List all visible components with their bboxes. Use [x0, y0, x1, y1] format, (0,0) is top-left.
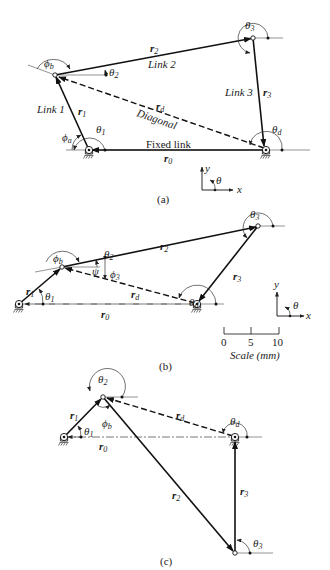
label-r0: r0 — [164, 152, 172, 166]
scale-label: Scale (mm) — [230, 349, 280, 362]
four-bar-linkage-figure: Link 1 Link 2 Link 3 Diagonal Fixed link… — [0, 0, 330, 570]
label-theta2-c: θ2 — [98, 373, 107, 387]
svg-text:y: y — [204, 162, 210, 174]
svg-text:0: 0 — [221, 336, 227, 348]
label-r3-b: r3 — [233, 270, 241, 284]
ground-pivot-left — [84, 146, 94, 158]
label-phib: ϕb — [44, 57, 54, 71]
coordinate-axes-icon-b: y θ x — [273, 278, 311, 321]
diagonal-rd-c — [107, 398, 233, 436]
label-fixed-link: Fixed link — [146, 138, 191, 150]
label-thetad: θd — [272, 123, 282, 137]
label-phi3-b: ϕ3 — [110, 268, 120, 282]
ground-pivot-right — [261, 146, 271, 158]
label-thetad-c: θd — [230, 415, 240, 429]
joint-b — [53, 73, 57, 77]
link2-r2-c — [103, 397, 233, 551]
caption-b: (b) — [159, 360, 172, 373]
label-r2-b: r2 — [160, 240, 168, 254]
label-psi-b: ψ — [92, 265, 99, 277]
svg-text:x: x — [236, 183, 242, 195]
label-theta2: θ2 — [109, 66, 118, 80]
label-theta2-b: θ2 — [104, 248, 113, 262]
label-r2: r2 — [150, 42, 158, 56]
svg-text:5: 5 — [248, 336, 254, 348]
coordinate-axes-icon: y θ x — [202, 162, 242, 195]
link2-r2-b — [62, 227, 256, 267]
label-theta3: θ3 — [245, 19, 254, 33]
panel-b: r1 r2 r3 rd r0 θ1 ϕb θ2 ϕ3 ψ θ3 θd y θ x… — [14, 208, 312, 373]
label-r0-b: r0 — [101, 308, 109, 322]
label-phib-b: ϕb — [53, 252, 63, 266]
svg-text:θ: θ — [293, 299, 299, 311]
svg-text:x: x — [305, 309, 311, 321]
label-rd: rd — [156, 100, 165, 114]
diagonal-rd-b — [65, 268, 195, 303]
label-r1-c: r1 — [70, 409, 78, 423]
label-theta1-b: θ1 — [45, 290, 54, 304]
label-theta1-c: θ1 — [84, 425, 93, 439]
caption-c: (c) — [160, 555, 173, 568]
caption-a: (a) — [157, 193, 170, 206]
phia-arc — [72, 135, 81, 150]
svg-text:10: 10 — [272, 336, 284, 348]
label-link1: Link 1 — [36, 103, 65, 115]
label-rd-c: rd — [176, 409, 185, 423]
label-r1-b: r1 — [26, 285, 34, 299]
ground-pivot-left-b — [14, 300, 24, 312]
label-r3: r3 — [263, 86, 271, 100]
label-link3: Link 3 — [224, 86, 253, 98]
panel-c: r1 r2 r3 rd r0 θ1 θ2 ϕb θd θ3 (c) — [59, 368, 274, 568]
label-thetad-b: θd — [189, 296, 199, 310]
label-link2: Link 2 — [147, 58, 176, 70]
scale-bar: 0 5 10 Scale (mm) — [221, 327, 284, 362]
label-r3-c: r3 — [240, 485, 248, 499]
ground-pivot-left-c — [59, 433, 69, 445]
label-phib-c: ϕb — [102, 417, 112, 431]
label-phia: ϕa — [62, 131, 72, 145]
label-theta3-b: θ3 — [250, 208, 259, 222]
label-rd-b: rd — [131, 288, 140, 302]
panel-a: Link 1 Link 2 Link 3 Diagonal Fixed link… — [28, 19, 310, 206]
svg-text:y: y — [273, 278, 279, 290]
svg-text:θ: θ — [216, 174, 222, 186]
label-r1: r1 — [78, 105, 86, 119]
joint-c — [251, 36, 255, 40]
label-r2-c: r2 — [172, 489, 180, 503]
label-theta1: θ1 — [96, 123, 105, 137]
label-r0-c: r0 — [99, 440, 107, 454]
label-theta3-c: θ3 — [253, 537, 262, 551]
